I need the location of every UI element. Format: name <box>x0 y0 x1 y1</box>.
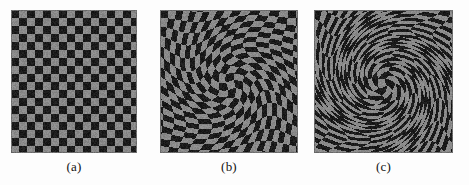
caption-b: (b) <box>160 159 298 175</box>
caption-a: (a) <box>11 159 137 175</box>
checkerboard-image-c <box>314 10 453 153</box>
checkerboard-image-a <box>11 10 137 153</box>
panel-a <box>11 10 137 153</box>
panel-b <box>160 10 298 153</box>
figure-container: (a) (b) (c) <box>0 0 469 185</box>
checkerboard-image-b <box>160 10 298 153</box>
panel-c <box>314 10 453 153</box>
caption-c: (c) <box>314 159 453 175</box>
